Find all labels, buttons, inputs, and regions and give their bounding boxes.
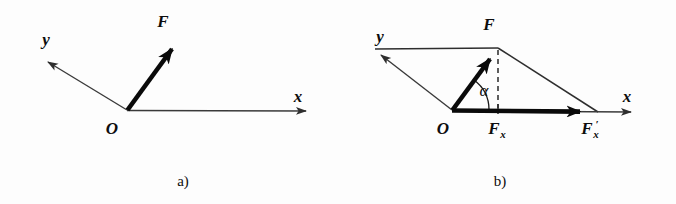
panel-a-origin-label: O xyxy=(106,119,118,138)
panel-b-y-axis xyxy=(381,55,452,110)
panel-b-component-label-Fx-prime-subscript: x xyxy=(592,128,599,140)
panel-a-force-label-F: F xyxy=(156,12,169,31)
panel-b-parallelogram-right-edge xyxy=(498,48,598,112)
panel-a-force-vector-F xyxy=(128,49,173,110)
physics-force-diagram: x y F O a) x xyxy=(0,0,676,204)
panel-b-caption: b) xyxy=(494,173,507,190)
panel-b-y-axis-label: y xyxy=(374,27,384,46)
panel-b-component-label-Fx-prime: F ′ x xyxy=(580,118,599,140)
panel-b-force-label-F: F xyxy=(482,15,495,34)
panel-b-angle-label-alpha: α xyxy=(480,81,490,100)
panel-a-caption: a) xyxy=(177,173,189,190)
panel-b-parallelogram-top-edge xyxy=(375,48,498,49)
panel-b-x-axis-label: x xyxy=(622,87,632,106)
panel-b-component-label-Fx-subscript: x xyxy=(499,128,506,140)
panel-a-x-axis-label: x xyxy=(293,87,303,106)
panel-b-component-label-Fx-base: F xyxy=(487,119,500,138)
panel-b-component-vector-Fx-prime xyxy=(452,111,580,112)
panel-a-y-axis-label: y xyxy=(40,30,50,49)
panel-a: x y F O a) xyxy=(40,12,306,190)
panel-b-component-label-Fx: F x xyxy=(487,119,506,140)
panel-b-origin-label: O xyxy=(437,119,449,138)
panel-a-x-axis xyxy=(127,111,306,112)
panel-b-component-label-Fx-prime-base: F xyxy=(580,119,593,138)
panel-a-y-axis xyxy=(48,62,127,110)
figure-root: x y F O a) x xyxy=(0,0,676,204)
panel-b: x y F α O F x F ′ x b) xyxy=(374,15,632,190)
